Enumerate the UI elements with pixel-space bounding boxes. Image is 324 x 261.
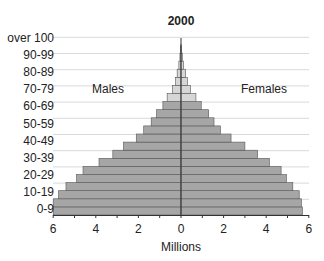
male-bar — [113, 150, 181, 158]
x-axis-label: Millions — [161, 240, 201, 254]
female-bar — [181, 175, 286, 183]
y-tick-label: 60-69 — [23, 99, 54, 113]
male-bar — [177, 69, 181, 77]
female-bar — [181, 69, 186, 77]
male-bar — [157, 110, 181, 118]
y-tick-label: 0-9 — [37, 202, 54, 216]
y-tick-label: 70-79 — [23, 82, 54, 96]
x-tick-label: 0 — [178, 222, 185, 236]
female-bar — [181, 134, 231, 142]
male-bar — [77, 175, 181, 183]
female-bar — [181, 94, 196, 102]
female-bar — [181, 110, 209, 118]
y-tick-label: over 100 — [7, 31, 54, 45]
females-label: Females — [241, 82, 287, 96]
male-bar — [53, 199, 181, 207]
female-bar — [181, 142, 245, 150]
y-tick-label: 40-49 — [23, 134, 54, 148]
female-bar — [181, 150, 258, 158]
male-bar — [99, 158, 181, 166]
x-tick-label: 2 — [220, 222, 227, 236]
x-tick-label: 6 — [50, 222, 57, 236]
male-bar — [144, 126, 181, 134]
y-tick-label: 30-39 — [23, 151, 54, 165]
x-tick-label: 4 — [263, 222, 270, 236]
female-bar — [181, 102, 201, 110]
male-bar — [176, 77, 181, 85]
y-tick-label: 20-29 — [23, 168, 54, 182]
y-tick-label: 90-99 — [23, 48, 54, 62]
males-label: Males — [92, 82, 124, 96]
y-tick-label: 80-89 — [23, 65, 54, 79]
male-bar — [53, 207, 181, 215]
x-tick-label: 4 — [92, 222, 99, 236]
male-bar — [66, 183, 181, 191]
y-tick-label: 10-19 — [23, 185, 54, 199]
male-bar — [83, 166, 181, 174]
male-bar — [167, 94, 181, 102]
male-bar — [123, 142, 181, 150]
y-tick-label: 50-59 — [23, 117, 54, 131]
female-bar — [181, 85, 191, 93]
male-bar — [59, 191, 181, 199]
female-bar — [181, 191, 299, 199]
male-bar — [136, 134, 181, 142]
x-tick-label: 6 — [305, 222, 312, 236]
female-bar — [181, 158, 269, 166]
female-bar — [181, 207, 302, 215]
population-pyramid-chart: 2000 over 10090-9980-8970-7960-6950-5940… — [0, 0, 324, 261]
female-bar — [181, 126, 220, 134]
male-bar — [172, 85, 181, 93]
female-bar — [181, 199, 301, 207]
male-bar — [163, 102, 181, 110]
x-tick-label: 2 — [135, 222, 142, 236]
female-bar — [181, 77, 187, 85]
female-bar — [181, 183, 293, 191]
male-bar — [151, 118, 181, 126]
female-bar — [181, 118, 214, 126]
female-bar — [181, 166, 281, 174]
